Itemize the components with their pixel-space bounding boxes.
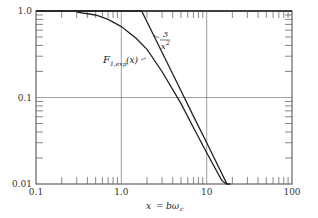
annotation-f1exp: F 1,exp (x) (102, 54, 146, 68)
svg-text:2: 2 (165, 39, 170, 46)
x-tick-100: 100 (283, 187, 300, 197)
series-f1exp-line (77, 12, 227, 184)
svg-text:3: 3 (163, 30, 168, 39)
svg-text:c: c (180, 205, 184, 212)
chart: 1.0 0.1 0.01 0.1 1.0 10 100 x = bω c 3 x… (0, 0, 318, 218)
x-tick-10: 10 (201, 187, 213, 197)
x-tick-0.1: 0.1 (29, 187, 43, 197)
svg-text:1,exp: 1,exp (110, 60, 127, 68)
x-tick-1: 1.0 (114, 187, 129, 197)
x-axis-label: x = bω c (146, 201, 184, 212)
y-tick-0.1: 0.1 (18, 93, 32, 103)
svg-text:x: x (146, 201, 151, 211)
svg-text:(x): (x) (126, 55, 139, 65)
svg-text:=: = (156, 201, 164, 211)
y-tick-1: 1.0 (18, 6, 33, 16)
svg-text:bω: bω (166, 201, 180, 211)
